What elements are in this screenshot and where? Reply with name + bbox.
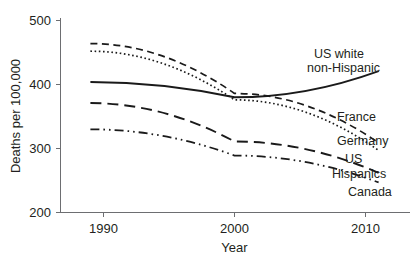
y-tick-label-300: 300 [29, 141, 51, 156]
y-tick-label-500: 500 [29, 13, 51, 28]
line-chart: 500 400 300 200 Deaths per 100,000 1990 … [0, 0, 416, 273]
x-tick-label-2010: 2010 [351, 221, 380, 236]
series-line-us-hispanics [90, 103, 378, 173]
y-tick-label-400: 400 [29, 77, 51, 92]
series-label-germany: Germany [337, 134, 389, 148]
series-label-us-hispanics-line2: Hispanics [332, 167, 386, 181]
series-label-canada: Canada [348, 185, 392, 199]
y-tick-label-200: 200 [29, 205, 51, 220]
x-tick-label-1990: 1990 [89, 221, 118, 236]
x-axis-title: Year [221, 240, 248, 255]
chart-container: 500 400 300 200 Deaths per 100,000 1990 … [0, 0, 416, 273]
series-label-us-white-line1: US white [314, 47, 364, 61]
series-label-us-hispanics-line1: US [345, 152, 362, 166]
series-label-us-white-line2: non-Hispanic [307, 61, 380, 75]
y-axis-title: Deaths per 100,000 [8, 59, 23, 173]
x-tick-label-2000: 2000 [220, 221, 249, 236]
series-label-france: France [337, 110, 376, 124]
